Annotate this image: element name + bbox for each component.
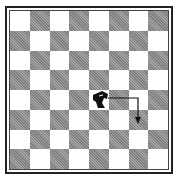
square-a3[interactable] xyxy=(10,110,30,130)
square-b8[interactable] xyxy=(30,11,50,31)
square-b2[interactable] xyxy=(30,130,50,150)
square-f4[interactable] xyxy=(109,90,129,110)
square-h4[interactable] xyxy=(148,90,168,110)
square-b4[interactable] xyxy=(30,90,50,110)
square-h3[interactable] xyxy=(148,110,168,130)
square-d5[interactable] xyxy=(69,70,89,90)
square-a8[interactable] xyxy=(10,11,30,31)
square-c3[interactable] xyxy=(50,110,70,130)
square-f6[interactable] xyxy=(109,51,129,71)
square-g8[interactable] xyxy=(129,11,149,31)
square-g7[interactable] xyxy=(129,31,149,51)
square-g6[interactable] xyxy=(129,51,149,71)
square-c7[interactable] xyxy=(50,31,70,51)
square-d7[interactable] xyxy=(69,31,89,51)
square-b3[interactable] xyxy=(30,110,50,130)
square-e6[interactable] xyxy=(89,51,109,71)
square-c2[interactable] xyxy=(50,130,70,150)
square-h5[interactable] xyxy=(148,70,168,90)
square-d4[interactable] xyxy=(69,90,89,110)
square-d2[interactable] xyxy=(69,130,89,150)
square-e7[interactable] xyxy=(89,31,109,51)
square-e4[interactable] xyxy=(89,90,109,110)
square-a7[interactable] xyxy=(10,31,30,51)
square-g5[interactable] xyxy=(129,70,149,90)
square-e2[interactable] xyxy=(89,130,109,150)
square-d3[interactable] xyxy=(69,110,89,130)
square-f8[interactable] xyxy=(109,11,129,31)
square-g3[interactable] xyxy=(129,110,149,130)
square-f3[interactable] xyxy=(109,110,129,130)
square-g1[interactable] xyxy=(129,149,149,169)
chess-board-inner-border xyxy=(9,10,169,170)
square-c5[interactable] xyxy=(50,70,70,90)
square-g4[interactable] xyxy=(129,90,149,110)
square-c6[interactable] xyxy=(50,51,70,71)
square-a1[interactable] xyxy=(10,149,30,169)
chess-board[interactable] xyxy=(10,11,168,169)
square-f7[interactable] xyxy=(109,31,129,51)
square-f5[interactable] xyxy=(109,70,129,90)
square-g2[interactable] xyxy=(129,130,149,150)
square-h7[interactable] xyxy=(148,31,168,51)
square-h1[interactable] xyxy=(148,149,168,169)
square-c8[interactable] xyxy=(50,11,70,31)
square-d6[interactable] xyxy=(69,51,89,71)
square-h6[interactable] xyxy=(148,51,168,71)
chess-board-frame xyxy=(5,6,173,174)
square-e8[interactable] xyxy=(89,11,109,31)
square-b7[interactable] xyxy=(30,31,50,51)
square-f1[interactable] xyxy=(109,149,129,169)
square-c4[interactable] xyxy=(50,90,70,110)
square-e5[interactable] xyxy=(89,70,109,90)
square-a2[interactable] xyxy=(10,130,30,150)
square-d8[interactable] xyxy=(69,11,89,31)
square-a4[interactable] xyxy=(10,90,30,110)
square-a6[interactable] xyxy=(10,51,30,71)
square-e3[interactable] xyxy=(89,110,109,130)
square-a5[interactable] xyxy=(10,70,30,90)
square-e1[interactable] xyxy=(89,149,109,169)
square-b6[interactable] xyxy=(30,51,50,71)
square-b5[interactable] xyxy=(30,70,50,90)
square-b1[interactable] xyxy=(30,149,50,169)
square-d1[interactable] xyxy=(69,149,89,169)
square-c1[interactable] xyxy=(50,149,70,169)
square-f2[interactable] xyxy=(109,130,129,150)
square-h8[interactable] xyxy=(148,11,168,31)
square-h2[interactable] xyxy=(148,130,168,150)
